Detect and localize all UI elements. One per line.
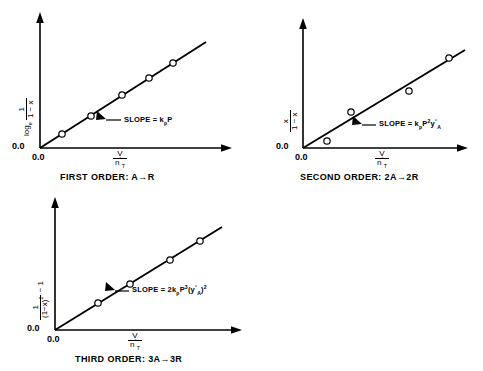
- slope-annotation-first: SLOPE = kpP: [124, 115, 172, 124]
- fraction-denominator: 1 − x: [290, 110, 299, 132]
- data-point: [170, 60, 176, 66]
- x-axis-label-fraction: V n°T: [375, 150, 389, 167]
- fit-line: [303, 50, 465, 148]
- fraction-denominator: 1 − x: [26, 98, 35, 120]
- data-point: [119, 92, 125, 98]
- data-point: [59, 131, 65, 137]
- y-axis-arrow: [299, 18, 307, 29]
- chart-second-order: SLOPE = kpP2y°A x 1 − x 0.0 0.0 V n°T SE…: [240, 0, 483, 190]
- data-point: [446, 55, 452, 61]
- y-axis-label-first: loge 1 1 − x: [18, 98, 35, 136]
- fraction-denominator: n°T: [113, 158, 127, 167]
- origin-label-x-third: 0.0: [47, 334, 60, 344]
- origin-label-x-second: 0.0: [295, 152, 308, 162]
- fraction-denominator: n°T: [375, 158, 389, 167]
- data-point: [95, 300, 101, 306]
- chart-third-order: SLOPE = 2kpP3(y°A)2 1 (1−x)2 − 1 0.0 0.0…: [20, 185, 270, 371]
- x-axis-arrow: [457, 144, 468, 152]
- caption-third-order: THIRD ORDER: 3A→3R: [75, 354, 182, 364]
- chart-first-order: SLOPE = kpP loge 1 1 − x 0.0 0.0 V n°T F…: [0, 0, 250, 190]
- y-axis-arrow: [51, 197, 59, 208]
- caption-second-order: SECOND ORDER: 2A→2R: [300, 172, 419, 182]
- origin-label-y-second: 0.0: [276, 141, 289, 151]
- origin-label-x-first: 0.0: [32, 152, 45, 162]
- y-axis-label-fraction: x 1 − x: [282, 110, 299, 132]
- slope-text: SLOPE =: [124, 115, 160, 124]
- slope-expression: 2kpP3(y°A)2: [168, 285, 207, 294]
- fraction-denominator: (1−x)2: [40, 295, 49, 320]
- slope-annotation-third: SLOPE = 2kpP3(y°A)2: [132, 285, 207, 294]
- fraction-numerator: x: [282, 110, 290, 132]
- slope-expression: kpP2y°A: [415, 119, 441, 128]
- y-axis-arrow: [36, 12, 44, 23]
- x-axis-label-fraction: V n°T: [113, 150, 127, 167]
- x-axis-label-first: V n°T: [95, 150, 145, 167]
- slope-text: SLOPE =: [379, 119, 415, 128]
- fraction-numerator: 1: [18, 98, 26, 120]
- caption-first-order: FIRST ORDER: A→R: [60, 172, 155, 182]
- y-axis-label-fraction: 1 (1−x)2: [32, 295, 49, 320]
- data-point: [348, 109, 354, 115]
- data-points: [324, 55, 452, 144]
- y-axis-label-prefix: loge: [22, 122, 31, 136]
- y-axis-label-third: 1 (1−x)2 − 1: [32, 281, 49, 320]
- data-point: [197, 238, 203, 244]
- origin-label-y-third: 0.0: [27, 323, 40, 333]
- slope-pointer: [96, 111, 121, 120]
- data-point: [167, 257, 173, 263]
- x-axis-label-second: V n°T: [357, 150, 407, 167]
- slope-annotation-second: SLOPE = kpP2y°A: [379, 119, 441, 128]
- data-point: [406, 88, 412, 94]
- x-axis-arrow: [221, 144, 232, 152]
- y-axis-label-fraction: 1 1 − x: [18, 98, 35, 120]
- x-axis-label-third: V n°T: [110, 332, 160, 349]
- data-point: [324, 138, 330, 144]
- data-point: [88, 113, 94, 119]
- slope-text: SLOPE =: [132, 285, 168, 294]
- slope-pointer: [352, 116, 376, 125]
- x-axis-label-fraction: V n°T: [128, 332, 142, 349]
- y-axis-label-suffix: − 1: [36, 281, 45, 292]
- origin-label-y-first: 0.0: [12, 141, 25, 151]
- y-axis-label-second: x 1 − x: [282, 110, 299, 132]
- data-point: [146, 75, 152, 81]
- fraction-denominator: n°T: [128, 340, 142, 349]
- slope-expression: kpP: [160, 115, 173, 124]
- x-axis-arrow: [231, 326, 242, 334]
